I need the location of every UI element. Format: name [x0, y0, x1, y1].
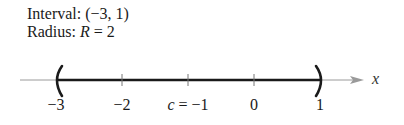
tick-label-0: 0	[250, 96, 258, 114]
center-value: = −1	[179, 96, 209, 113]
tick-label-center: c = −1	[167, 96, 208, 114]
tick-label-neg2: −2	[113, 96, 130, 114]
tick-label-neg3: −3	[47, 96, 64, 114]
axis-variable-label: x	[372, 70, 379, 88]
center-variable: c	[167, 96, 174, 113]
tick-label-1: 1	[316, 96, 324, 114]
